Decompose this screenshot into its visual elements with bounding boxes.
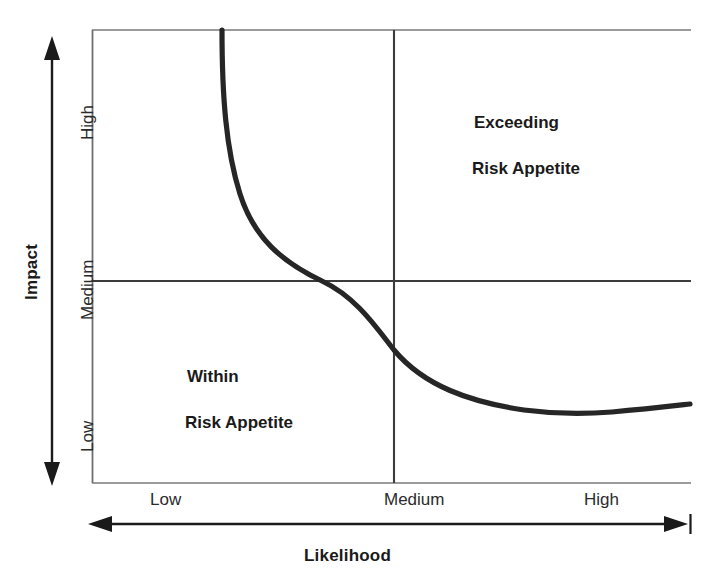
y-axis-arrowhead-down <box>44 462 60 486</box>
x-axis-arrowhead-right <box>664 516 688 532</box>
x-axis-title: Likelihood <box>304 546 391 566</box>
zone-within-line1: Within <box>187 367 239 386</box>
y-axis-arrowhead-up <box>44 36 60 60</box>
x-tick-label-low: Low <box>150 490 181 510</box>
zone-label-within-risk-appetite: Within Risk Appetite <box>168 342 293 480</box>
risk-appetite-chart: Impact High Medium Low Low Medium High L… <box>0 0 715 580</box>
x-tick-label-medium: Medium <box>384 490 444 510</box>
y-tick-label-medium: Medium <box>78 260 98 320</box>
zone-exceeding-line1: Exceeding <box>474 113 559 132</box>
y-tick-label-low: Low <box>78 421 98 452</box>
zone-exceeding-line2: Risk Appetite <box>455 157 580 180</box>
x-axis-arrowhead-left <box>88 516 112 532</box>
y-axis-title: Impact <box>22 244 42 300</box>
zone-label-exceeding-risk-appetite: Exceeding Risk Appetite <box>455 88 580 226</box>
x-tick-label-high: High <box>584 490 619 510</box>
zone-within-line2: Risk Appetite <box>168 411 293 434</box>
y-tick-label-high: High <box>78 105 98 140</box>
